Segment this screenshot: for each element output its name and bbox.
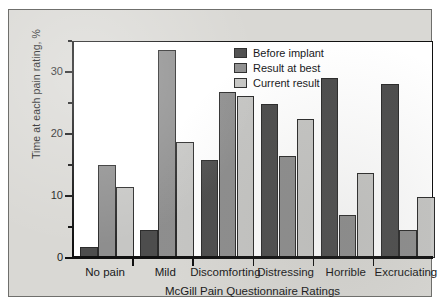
x-tick-label: Horrible: [326, 266, 366, 278]
x-tick-label: Mild: [155, 266, 176, 278]
x-tick-label: Distressing: [257, 266, 314, 278]
x-tick: [253, 259, 255, 266]
bar: [158, 50, 176, 258]
bar: [297, 119, 315, 259]
x-axis-title: McGill Pain Questionnaire Ratings: [72, 285, 433, 297]
x-tick: [373, 259, 375, 266]
bar: [357, 173, 375, 258]
x-tick: [132, 259, 134, 266]
bar: [219, 92, 237, 258]
legend-item: Current result: [234, 76, 324, 89]
x-tick-label: Discomforting: [190, 266, 260, 278]
bar: [339, 215, 357, 258]
y-tick-major: [65, 71, 72, 73]
bar: [279, 156, 297, 258]
bar: [261, 104, 279, 258]
chart-legend: Before implantResult at bestCurrent resu…: [234, 46, 324, 91]
y-axis-title: Time at each pain rating, %: [30, 4, 42, 184]
bar: [381, 84, 399, 258]
bar: [98, 165, 116, 258]
bar: [116, 187, 134, 258]
x-tick-label: Excruciating: [375, 266, 438, 278]
legend-label: Current result: [253, 77, 320, 89]
x-tick: [313, 259, 315, 266]
legend-swatch-icon: [234, 48, 247, 58]
legend-label: Result at best: [253, 62, 320, 74]
y-tick-label: 0: [35, 252, 63, 263]
y-tick-major: [65, 195, 72, 197]
y-tick-minor: [68, 40, 73, 42]
legend-swatch-icon: [234, 63, 247, 73]
bar: [321, 78, 339, 258]
legend-label: Before implant: [253, 47, 324, 59]
bar-group: [134, 42, 194, 258]
x-tick: [192, 259, 194, 266]
y-tick-minor: [68, 102, 73, 104]
figure-root: Time at each pain rating, % 0102030 No p…: [0, 0, 441, 306]
y-tick-minor: [68, 226, 73, 228]
figure-panel: Time at each pain rating, % 0102030 No p…: [8, 9, 432, 297]
legend-item: Before implant: [234, 46, 324, 59]
bar: [140, 230, 158, 258]
y-tick-label: 30: [35, 66, 63, 77]
y-tick-label: 10: [35, 190, 63, 201]
bar-group: [375, 42, 435, 258]
y-tick-major: [65, 257, 72, 259]
y-tick-minor: [68, 164, 73, 166]
legend-item: Result at best: [234, 61, 324, 74]
bar: [399, 230, 417, 258]
y-tick-label: 20: [35, 128, 63, 139]
legend-swatch-icon: [234, 78, 247, 88]
bar: [417, 197, 435, 258]
y-tick-major: [65, 133, 72, 135]
bar: [201, 160, 219, 258]
bar-group: [74, 42, 134, 258]
bar: [176, 142, 194, 258]
bar: [237, 96, 255, 258]
x-tick-label: No pain: [85, 266, 125, 278]
